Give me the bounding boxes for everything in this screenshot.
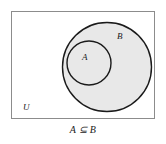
- set-a-circle: [67, 41, 111, 85]
- figure-caption: A ⊆ B: [0, 125, 166, 135]
- venn-diagram-figure: B A U A ⊆ B: [0, 0, 166, 144]
- set-a-label: A: [82, 53, 88, 62]
- venn-diagram-canvas: [0, 0, 166, 144]
- universe-label: U: [23, 103, 30, 112]
- set-b-label: B: [117, 32, 123, 41]
